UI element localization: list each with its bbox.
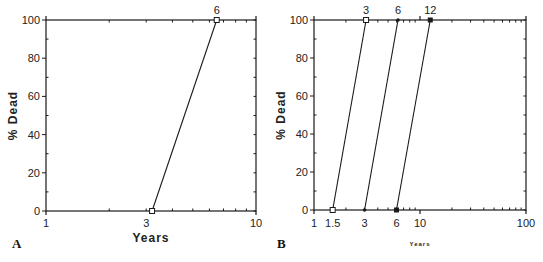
series-6: 6 [363,4,401,212]
series-line [396,20,430,210]
y-axis-title: % Dead [6,91,20,140]
y-tick-label: 20 [28,167,40,179]
x-tick-label: 3 [362,217,368,229]
series-label: 6 [395,4,401,16]
y-tick-label: 40 [296,128,308,140]
filled-square-marker [428,18,433,23]
x-tick-label: 6 [393,217,399,229]
series-label: 3 [363,4,369,16]
y-tick-label: 40 [28,129,40,141]
series-line [333,20,366,210]
plot-frame [46,20,256,211]
x-tick-label: 100 [517,217,535,229]
open-square-marker [364,18,369,23]
open-square-marker [150,209,155,214]
y-tick-label: 60 [28,90,40,102]
x-tick-label: 1 [43,217,49,229]
y-tick-label: 60 [296,90,308,102]
y-tick-label: 100 [22,14,40,26]
x-tick-label: 1 [311,217,317,229]
series-line [365,20,398,210]
y-tick-label: 20 [296,166,308,178]
filled-dot-marker [363,208,367,212]
y-tick-label: 0 [34,205,40,217]
series-label: 12 [424,4,436,16]
y-tick-label: 100 [290,14,308,26]
figure: 1310020406080100Years% DeadA611.53610100… [0,0,543,262]
chart-panel-a: 1310020406080100Years% DeadA6 [6,4,262,251]
open-square-marker [330,208,335,213]
chart-panel-b: 11.53610100020406080100Years% DeadB3612 [274,4,535,251]
y-tick-label: 80 [296,52,308,64]
y-axis-title: % Dead [274,90,288,139]
series-3: 3 [330,4,369,213]
x-tick-label: 10 [250,217,262,229]
y-tick-label: 0 [302,204,308,216]
x-tick-label: 10 [414,217,426,229]
panel-letter: B [277,236,286,251]
x-axis-title: Years [132,231,169,245]
x-axis-title: Years [409,241,430,247]
plot-frame [314,20,526,210]
series-line [152,20,217,211]
filled-dot-marker [396,18,400,22]
series-6: 6 [150,4,220,214]
open-square-marker [214,18,219,23]
x-tick-label: 3 [143,217,149,229]
series-12: 12 [394,4,436,213]
panel-letter: A [12,236,22,251]
series-label: 6 [214,4,220,16]
x-tick-label: 1.5 [325,217,340,229]
filled-square-marker [394,208,399,213]
y-tick-label: 80 [28,52,40,64]
